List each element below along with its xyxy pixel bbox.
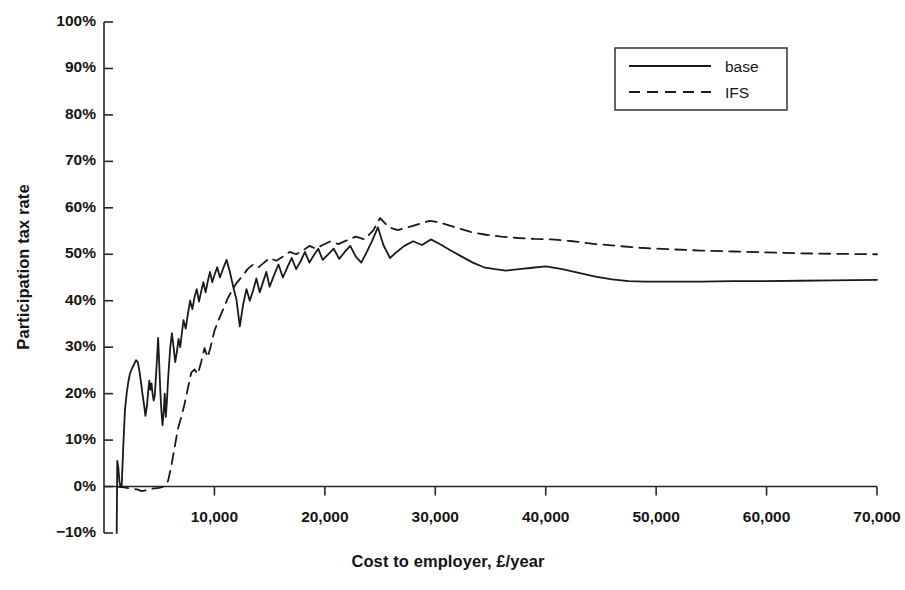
legend-label-base: base [725,58,759,75]
legend-label-ifs: IFS [725,84,749,101]
legend: baseIFS [615,48,787,110]
series-line-ifs [117,218,877,491]
